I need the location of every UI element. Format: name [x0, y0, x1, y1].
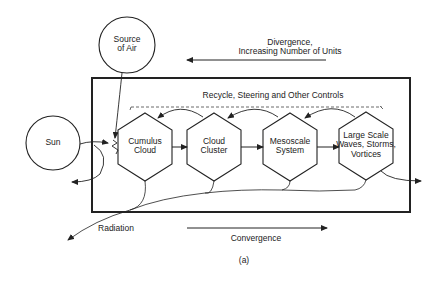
sun-label: Sun	[33, 138, 73, 147]
radiation-curve-4	[355, 180, 366, 190]
recycle-arc-2	[228, 109, 278, 118]
sun-inflow-arrow	[80, 142, 108, 144]
convergence-label: Convergence	[226, 234, 286, 243]
outflow-arrow	[381, 171, 421, 181]
unit-3-line3: Vortices	[335, 150, 397, 159]
recycle-arc-3	[305, 109, 355, 118]
figure-caption: (a)	[234, 256, 254, 265]
recycle-arc-1	[158, 109, 203, 118]
recycle-label: Recycle, Steering and Other Controls	[160, 91, 386, 100]
radiation-curve-2	[205, 181, 214, 193]
recycle-dashed-tick-left	[130, 107, 131, 110]
unit-2-line2: System	[260, 146, 320, 155]
unit-label-mesoscale-system: Mesoscale System	[260, 137, 320, 156]
radiation-curve-3	[282, 181, 290, 190]
divergence-label: Divergence, Increasing Number of Units	[190, 38, 390, 57]
divergence-line2: Increasing Number of Units	[190, 47, 390, 56]
source-of-air-label: Source of Air	[99, 35, 155, 54]
radiation-label: Radiation	[94, 224, 138, 233]
sun-reflection-arrow	[72, 145, 104, 182]
recycle-dashed-tick	[380, 106, 383, 109]
unit-label-cloud-cluster: Cloud Cluster	[187, 137, 241, 156]
unit-label-large-scale: Large Scale Waves, Storms, Vortices	[335, 131, 397, 159]
unit-1-line2: Cluster	[187, 146, 241, 155]
unit-0-line2: Cloud	[118, 146, 172, 155]
unit-label-cumulus-cloud: Cumulus Cloud	[118, 137, 172, 156]
source-of-air-line2: of Air	[99, 44, 155, 53]
